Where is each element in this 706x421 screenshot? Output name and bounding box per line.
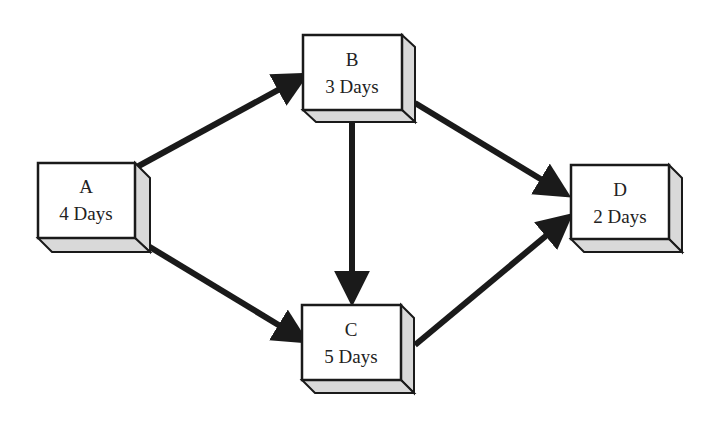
node-b-name: B	[346, 49, 359, 70]
box-side	[135, 163, 150, 252]
edge-a-to-c	[135, 238, 300, 338]
network-diagram: A 4 Days B 3 Days C 5 Days D 2 Days	[0, 0, 706, 421]
edge-c-to-d	[415, 220, 565, 345]
box-bottom	[302, 380, 414, 393]
node-c-duration: 5 Days	[324, 346, 377, 367]
node-b-duration: 3 Days	[325, 76, 378, 97]
node-c: C 5 Days	[302, 305, 414, 393]
node-a-duration: 4 Days	[59, 203, 112, 224]
box-face	[38, 163, 135, 238]
box-side	[669, 165, 682, 252]
node-b: B 3 Days	[303, 35, 415, 122]
node-a-name: A	[79, 176, 93, 197]
box-side	[402, 35, 415, 122]
box-bottom	[571, 239, 682, 252]
edge-b-to-d	[415, 103, 562, 192]
box-face	[303, 35, 402, 110]
node-d-name: D	[613, 179, 627, 200]
node-c-name: C	[345, 319, 358, 340]
box-bottom	[303, 110, 415, 122]
box-side	[401, 305, 414, 393]
node-d: D 2 Days	[571, 165, 682, 252]
box-face	[302, 305, 401, 380]
box-face	[571, 165, 669, 239]
node-d-duration: 2 Days	[593, 206, 646, 227]
box-bottom	[38, 238, 150, 252]
node-a: A 4 Days	[38, 163, 150, 252]
edge-a-to-b	[135, 78, 300, 168]
